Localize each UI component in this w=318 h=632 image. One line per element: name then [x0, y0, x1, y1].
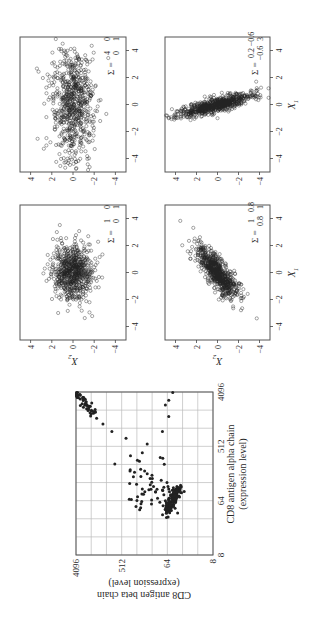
sigma-label: Σ = [106, 62, 116, 75]
sigma-entry: 1 [112, 37, 121, 41]
cd8-x-axis-label-line2: (expression level) [237, 438, 249, 509]
x-tick-label: −4 [131, 154, 140, 163]
x-tick-label: 4 [131, 49, 140, 53]
sigma-entry: −0.6 [247, 32, 256, 47]
x-tick-label: 0 [131, 103, 140, 107]
sigma-entry: 3 [256, 37, 265, 41]
y-tick-label: −4 [256, 177, 265, 186]
panel-top-left: −4−4−2−2002244Σ =1001X2 [20, 205, 140, 367]
x-tick-label: 2 [131, 244, 140, 248]
x-tick-label: 0 [131, 271, 140, 275]
cd8-x-tick: 8 [216, 552, 226, 557]
sigma-matrix: 1001 [103, 205, 121, 223]
x-tick-label: −4 [275, 322, 284, 331]
panel-data-points [35, 37, 110, 171]
sigma-entry: 0.8 [256, 216, 265, 226]
x1-axis-label: X1 [286, 268, 300, 279]
sigma-label: Σ = [250, 62, 260, 75]
y-tick-label: 2 [193, 177, 202, 181]
sigma-entry: 0 [103, 205, 112, 209]
x-tick-label: −2 [131, 295, 140, 304]
cd8-y-tick: 64 [162, 559, 172, 569]
y-tick-label: 2 [48, 177, 57, 181]
sigma-entry: 0.2 [247, 48, 256, 58]
y-tick-label: −2 [90, 345, 99, 354]
x-tick-label: 4 [275, 49, 284, 53]
y-tick-label: 2 [48, 345, 57, 349]
cd8-x-tick: 4096 [216, 383, 226, 402]
x-tick-label: −4 [275, 154, 284, 163]
sigma-entry: 4 [103, 51, 112, 55]
y-tick-label: 0 [69, 177, 78, 181]
y-tick-label: 0 [69, 345, 78, 349]
x-tick-label: 4 [131, 217, 140, 221]
cd8-y-axis-label-line1: CD8 antigen beta chain [97, 590, 191, 601]
x-tick-label: −2 [131, 127, 140, 136]
x-tick-label: −4 [131, 322, 140, 331]
cd8-y-tick: 4096 [71, 559, 81, 578]
panel-bottom-right: −4−4−2−2002244Σ =0.2−0.6−0.63X1 [165, 32, 300, 186]
sigma-entry: 0 [103, 37, 112, 41]
y-tick-label: 4 [27, 177, 36, 181]
x-tick-label: 2 [131, 76, 140, 80]
panel-top-right: −4−4−2−2002244Σ =4001 [20, 37, 140, 186]
sigma-entry: 0 [112, 219, 121, 223]
sigma-entry: 1 [103, 219, 112, 223]
x-tick-label: 0 [275, 103, 284, 107]
sigma-label: Σ = [106, 230, 116, 243]
y-tick-label: 4 [172, 177, 181, 181]
cd8-y-tick: 512 [117, 559, 127, 573]
cd8-x-axis-label-line1: CD8 antigen alpha chain [225, 424, 236, 523]
sigma-entry: 0 [112, 51, 121, 55]
y-tick-label: −2 [235, 177, 244, 186]
sigma-entry: 1 [256, 205, 265, 209]
sigma-entry: 0.8 [247, 202, 256, 212]
covariance-panels-grid: −4−4−2−2002244Σ =1001X2−4−4−2−2002244Σ =… [20, 32, 300, 367]
panel-bottom-left: −4−4−2−2002244Σ =10.80.81X1X2 [165, 202, 300, 367]
y-tick-label: 0 [214, 177, 223, 181]
cd8-gridlines [76, 392, 213, 555]
y-tick-label: 0 [214, 345, 223, 349]
sigma-entry: 1 [247, 219, 256, 223]
y-tick-label: 2 [193, 345, 202, 349]
x2-axis-label: X2 [212, 353, 223, 367]
panel-data-points [179, 219, 259, 320]
sigma-matrix: 4001 [103, 37, 121, 55]
figure: 8645124096 8645124096 CD8 antigen alpha … [0, 0, 318, 632]
panel-data-points [42, 223, 104, 319]
cd8-scatter-plot: 8645124096 8645124096 CD8 antigen alpha … [71, 383, 249, 602]
y-tick-label: 4 [172, 345, 181, 349]
x-tick-label: 2 [275, 76, 284, 80]
x-tick-label: −2 [275, 295, 284, 304]
y-tick-label: −2 [235, 345, 244, 354]
sigma-entry: 1 [112, 205, 121, 209]
y-tick-label: 4 [27, 345, 36, 349]
sigma-matrix: 10.80.81 [247, 202, 265, 226]
sigma-entry: −0.6 [256, 46, 265, 61]
cd8-plot-frame [76, 392, 213, 555]
sigma-label: Σ = [250, 230, 260, 243]
x-tick-label: 4 [275, 217, 284, 221]
x-tick-label: 2 [275, 244, 284, 248]
x2-axis-label: X2 [68, 353, 79, 367]
y-tick-label: −4 [111, 177, 120, 186]
x-tick-label: −2 [275, 127, 284, 136]
sigma-matrix: 0.2−0.6−0.63 [247, 32, 265, 61]
cd8-y-tick-labels: 8645124096 [71, 559, 218, 578]
y-tick-label: −2 [90, 177, 99, 186]
cd8-y-axis-label-line2: (expression level) [108, 577, 179, 589]
y-tick-label: −4 [111, 345, 120, 354]
x-tick-label: 0 [275, 271, 284, 275]
x1-axis-label: X1 [286, 100, 300, 111]
y-tick-label: −4 [256, 345, 265, 354]
figure-canvas: 8645124096 8645124096 CD8 antigen alpha … [0, 0, 318, 632]
panel-data-points [165, 80, 271, 122]
cd8-y-tick: 8 [208, 559, 218, 564]
